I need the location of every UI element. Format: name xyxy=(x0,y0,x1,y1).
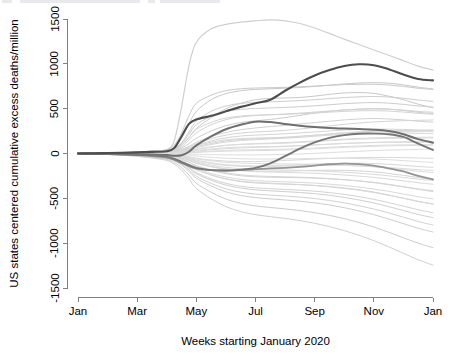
series-line-background-state-c xyxy=(78,119,433,154)
y-tick-label--500: -500 xyxy=(49,187,61,210)
x-tick-label-4: Sep xyxy=(304,305,324,317)
x-tick-label-1: Mar xyxy=(127,305,147,317)
chart-container: -1500-1000-500050010001500JanMarMayJulSe… xyxy=(0,0,457,364)
x-tick-label-6: Jan xyxy=(424,305,443,317)
y-tick-label-1000: 1000 xyxy=(49,51,61,77)
y-tick-label-500: 500 xyxy=(49,99,61,118)
y-tick-label--1000: -1000 xyxy=(49,228,61,257)
y-tick-label--1500: -1500 xyxy=(49,273,61,302)
y-axis-title: US states centered cumulative excess dea… xyxy=(8,19,20,287)
x-tick-label-0: Jan xyxy=(69,305,88,317)
series-group xyxy=(78,20,433,265)
x-axis-title: Weeks starting January 2020 xyxy=(181,335,330,347)
series-line-background-state-r xyxy=(78,154,433,266)
x-tick-label-5: Nov xyxy=(364,305,385,317)
y-tick-label-1500: 1500 xyxy=(49,6,61,32)
y-tick-label-0: 0 xyxy=(49,150,61,156)
x-tick-label-2: May xyxy=(185,305,207,317)
series-line-background-state-nn xyxy=(78,154,433,204)
series-line-background-state-s xyxy=(78,120,433,154)
plot-area: -1500-1000-500050010001500JanMarMayJulSe… xyxy=(0,0,457,364)
x-tick-label-3: Jul xyxy=(248,305,263,317)
axes-group xyxy=(63,19,433,302)
